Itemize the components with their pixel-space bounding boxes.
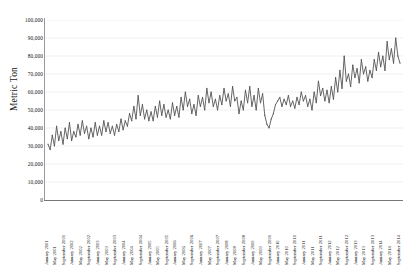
x-tick-label: May 2002 xyxy=(78,246,83,265)
data-point xyxy=(369,70,370,71)
data-point xyxy=(234,101,235,102)
data-point xyxy=(275,104,276,105)
data-point xyxy=(93,137,94,138)
data-point xyxy=(359,83,360,84)
data-point xyxy=(120,119,121,120)
data-point xyxy=(136,119,137,120)
x-tick-label: September 2002 xyxy=(86,235,91,265)
data-point xyxy=(391,48,392,49)
data-point xyxy=(337,92,338,93)
x-tick-label: September 2001 xyxy=(61,235,66,265)
data-point xyxy=(376,70,377,71)
data-point xyxy=(191,113,192,114)
data-point xyxy=(84,133,85,134)
data-point xyxy=(384,70,385,71)
y-tick-label: 0 xyxy=(1,197,43,203)
x-tick-label: January 2007 xyxy=(198,240,203,265)
data-point xyxy=(243,110,244,111)
x-tick-label: September 2008 xyxy=(241,235,246,265)
data-point xyxy=(97,135,98,136)
data-point xyxy=(335,77,336,78)
data-point xyxy=(163,104,164,105)
y-tick-label: 40,000 xyxy=(1,125,43,131)
data-point xyxy=(127,126,128,127)
x-tick-label: May 2012 xyxy=(335,246,340,265)
data-point xyxy=(161,115,162,116)
x-tick-label: May 2003 xyxy=(104,246,109,265)
data-point xyxy=(54,146,55,147)
x-tick-label: May 2001 xyxy=(52,246,57,265)
x-tick-label: January 2013 xyxy=(353,240,358,265)
data-point xyxy=(198,95,199,96)
data-point xyxy=(215,99,216,100)
data-point xyxy=(131,120,132,121)
data-point xyxy=(99,126,100,127)
x-tick-label: May 2004 xyxy=(129,246,134,265)
x-tick-label: January 2009 xyxy=(250,240,255,265)
data-point xyxy=(324,101,325,102)
x-tick-label: May 2005 xyxy=(155,246,160,265)
x-tick-label: September 2003 xyxy=(112,235,117,265)
data-point xyxy=(299,104,300,105)
data-point xyxy=(284,99,285,100)
x-tick-label: January 2002 xyxy=(69,240,74,265)
x-tick-label: January 2004 xyxy=(121,240,126,265)
data-point xyxy=(232,86,233,87)
data-point xyxy=(316,102,317,103)
x-tick-label: May 2009 xyxy=(258,246,263,265)
data-point xyxy=(294,108,295,109)
data-point xyxy=(279,97,280,98)
data-point xyxy=(260,102,261,103)
data-point xyxy=(196,115,197,116)
data-point xyxy=(296,97,297,98)
data-line xyxy=(48,38,400,150)
x-tick-label: May 2014 xyxy=(387,246,392,265)
data-point xyxy=(226,101,227,102)
data-point xyxy=(251,106,252,107)
data-point xyxy=(69,122,70,123)
data-point xyxy=(78,124,79,125)
data-point xyxy=(71,140,72,141)
y-axis-tick-labels: 100,00090,00080,00070,00060,00050,00040,… xyxy=(0,0,43,265)
data-point xyxy=(129,113,130,114)
data-point xyxy=(133,106,134,107)
data-point xyxy=(151,111,152,112)
data-point xyxy=(262,93,263,94)
x-tick-label: January 2001 xyxy=(44,240,49,265)
x-tick-label: January 2008 xyxy=(224,240,229,265)
data-point xyxy=(389,59,390,60)
data-point xyxy=(123,129,124,130)
data-point xyxy=(372,77,373,78)
x-axis-tick-labels: January 2001May 2001September 2001Januar… xyxy=(44,203,404,265)
data-point xyxy=(320,95,321,96)
data-point xyxy=(288,95,289,96)
data-point xyxy=(50,149,51,150)
x-tick-label: September 2013 xyxy=(370,235,375,265)
data-point xyxy=(309,99,310,100)
data-point xyxy=(269,128,270,129)
data-point xyxy=(157,117,158,118)
data-point xyxy=(352,65,353,66)
data-point xyxy=(88,138,89,139)
data-point xyxy=(118,131,119,132)
data-point xyxy=(217,110,218,111)
data-point xyxy=(56,126,57,127)
data-point xyxy=(312,110,313,111)
data-point xyxy=(354,77,355,78)
data-point xyxy=(140,115,141,116)
data-point xyxy=(103,120,104,121)
data-point xyxy=(170,119,171,120)
x-tick-label: May 2013 xyxy=(361,246,366,265)
data-point xyxy=(314,92,315,93)
y-tick-label: 30,000 xyxy=(1,143,43,149)
data-point xyxy=(329,102,330,103)
data-point xyxy=(110,133,111,134)
data-point xyxy=(344,56,345,57)
data-point xyxy=(183,110,184,111)
data-point xyxy=(73,131,74,132)
data-point xyxy=(374,59,375,60)
x-tick-label: May 2008 xyxy=(232,246,237,265)
data-point xyxy=(138,95,139,96)
data-point xyxy=(393,63,394,64)
x-tick-label: January 2005 xyxy=(147,240,152,265)
